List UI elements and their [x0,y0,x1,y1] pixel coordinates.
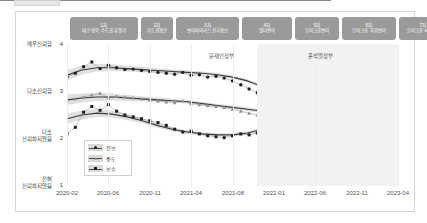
y-tick-label-somewhat-trust: 다소신뢰함 [6,88,52,95]
gridline-2023-04 [398,44,399,186]
wave-chip-5: 5차 오미크론변이 [295,17,339,40]
gridline-2022-11 [357,44,358,186]
wave-3-text: 변이바이러스 전국확산 [187,29,228,34]
data-point [132,67,135,70]
wave-4-text: 델타변이 [259,29,275,34]
data-point [173,73,176,76]
data-point [165,72,168,75]
data-point [99,109,102,112]
gridline-2022-01 [274,44,275,186]
data-point [156,71,159,74]
x-tick-2023-04: 2023-04 [376,190,420,196]
legend-item-moderate: 중도 [88,154,128,163]
data-point [247,87,250,90]
x-tick-2020-11: 2020-11 [128,190,172,196]
legend-label-progressive: 진보 [106,144,116,151]
wave-chip-7: 7차 오미크론 BQ변이 [399,17,427,40]
wave-chip-6: 6차 오미크론 하위변이 [342,17,396,40]
gridline-2021-08 [233,44,234,186]
annotation-moon-government: 문재인정부 [209,52,234,60]
legend-label-moderate: 중도 [106,155,116,162]
legend-item-progressive: 진보 [88,143,128,152]
data-point [223,76,226,79]
data-point [198,132,201,135]
y-tick-value-2: 2 [55,135,63,141]
data-point [115,66,118,69]
wave-6-text: 오미크론 하위변이 [352,29,385,34]
data-point [82,65,85,68]
y-tick-value-4: 4 [55,41,63,47]
data-point [98,91,102,95]
data-point [214,75,217,78]
y-tick-label-not-at-all-trust: 전혀 신뢰하지않음 [6,176,52,190]
data-point [206,134,209,137]
data-point [132,115,135,118]
y-tick-value-1: 1 [55,182,63,188]
data-point [115,110,118,113]
data-point [239,132,242,135]
chart-legend: 진보 중도 보수 [84,140,132,176]
data-point [98,67,101,70]
data-point [82,111,85,114]
legend-key-conservative [88,165,103,172]
triangle-marker-icon [94,157,98,160]
data-point [140,69,143,72]
x-tick-2020-02: 2020-02 [45,190,89,196]
data-point [165,124,168,127]
data-point [140,117,143,120]
data-point [74,72,77,75]
data-point [173,128,176,131]
x-tick-2021-04: 2021-04 [169,190,213,196]
wave-chip-3: 3차 변이바이러스 전국확산 [176,17,239,40]
circle-marker-icon [94,146,97,149]
wave-7-text: 오미크론 BQ변이 [407,29,427,34]
wave-5-text: 오미크론변이 [305,29,329,34]
x-tick-2022-11: 2022-11 [335,190,379,196]
wave-chip-2: 2차 수도권확산 [141,17,173,40]
wave-2-text: 수도권확산 [147,29,167,34]
wave-1-text: 대구·경북·수도권 유행기 [82,29,126,34]
data-point [215,135,218,138]
data-point [198,73,201,76]
legend-label-conservative: 보수 [106,165,116,172]
data-point [157,121,160,124]
y-tick-value-3: 3 [55,88,63,94]
square-marker-icon [94,167,97,170]
gridline-2020-02 [67,44,68,186]
annotation-yoon-government: 윤석열정부 [308,52,333,60]
chart-figure: 4 3 2 1 매우신뢰함 다소신뢰함 다소 신뢰하지않음 전혀 신뢰하지않음 … [0,0,427,223]
data-point [90,60,93,63]
data-point [90,105,93,108]
legend-item-conservative: 보수 [88,164,128,173]
data-point [123,68,126,71]
legend-key-progressive [88,144,103,151]
data-point [223,136,226,139]
x-tick-2022-01: 2022-01 [252,190,296,196]
gridline-2020-11 [150,44,151,186]
data-point [239,83,242,86]
y-tick-label-very-trust: 매우신뢰함 [6,41,52,48]
yoon-government-band [257,44,398,186]
data-point [248,133,251,136]
data-point [181,131,184,134]
x-tick-2022-06: 2022-06 [293,190,337,196]
y-tick-label-somewhat-distrust: 다소 신뢰하지않음 [6,129,52,143]
wave-chip-1: 1차 대구·경북·수도권 유행기 [70,17,138,40]
data-point [74,126,77,129]
top-stub-bar [14,0,60,6]
legend-key-moderate [88,155,103,162]
wave-chip-4: 4차 델타변이 [242,17,292,40]
x-tick-2021-08: 2021-08 [211,190,255,196]
gridline-2022-06 [315,44,316,186]
data-point [181,71,184,74]
data-point [123,114,126,117]
data-point [206,75,209,78]
x-tick-2020-06: 2020-06 [86,190,130,196]
gridline-2021-04 [191,44,192,186]
